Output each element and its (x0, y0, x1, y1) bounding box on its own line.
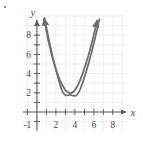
x-tick-label-2: 2 (54, 120, 59, 130)
y-tick-label-2: 2 (26, 88, 31, 98)
y-tick-label-6: 6 (26, 50, 31, 60)
x-tick-label-neg1: -1 (23, 120, 31, 130)
x-tick-label-4: 4 (73, 120, 78, 130)
curve-arrow-left (44, 18, 45, 23)
x-tick-label-6: 6 (92, 120, 97, 130)
x-axis-label: x (130, 106, 136, 118)
curve-arrow-right-branch (96, 20, 97, 25)
y-axis-label: y (30, 6, 36, 18)
y-tick-label-8: 8 (26, 30, 31, 40)
graph-figure: y x -1 2 4 6 8 2 4 6 8 (0, 0, 143, 141)
parabola-curve-smooth (44, 19, 97, 94)
y-tick-label-4: 4 (26, 69, 31, 79)
x-tick-label-8: 8 (111, 120, 116, 130)
parabola-plot: y x -1 2 4 6 8 2 4 6 8 (0, 0, 143, 141)
